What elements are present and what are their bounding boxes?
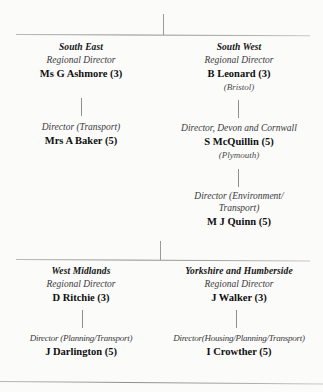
- housing-planning-transport-person-label: I Crowther (5): [157, 346, 321, 358]
- yorkshire-humberside-role-label: Regional Director: [161, 279, 317, 290]
- node-yorkshire-humberside: Yorkshire and Humberside Regional Direct…: [161, 266, 317, 305]
- planning-transport-person-label: J Darlington (5): [4, 346, 158, 358]
- devon-cornwall-role-label: Director, Devon and Cornwall: [160, 123, 318, 134]
- south-west-connector: [238, 100, 239, 118]
- environment-transport-role-line2: Transport): [163, 203, 315, 215]
- org-chart-page: South East Regional Director Ms G Ashmor…: [0, 0, 323, 392]
- south-west-role-label: Regional Director: [163, 55, 315, 66]
- south-east-person-label: Ms G Ashmore (3): [6, 68, 156, 80]
- housing-planning-transport-role-label: Director(Housing/Planning/Transport): [157, 333, 321, 344]
- node-director-devon-cornwall: Director, Devon and Cornwall S McQuillin…: [160, 121, 318, 160]
- devon-cornwall-location-label: (Plymouth): [160, 150, 318, 161]
- page-bottom-rule: [0, 381, 323, 385]
- node-director-transport: Director (Transport) Mrs A Baker (5): [6, 120, 156, 148]
- node-south-east: South East Regional Director Ms G Ashmor…: [6, 42, 156, 81]
- south-west-region-label: South West: [163, 42, 315, 53]
- environment-transport-role-line1: Director (Environment/: [163, 191, 315, 203]
- top-horizontal-rule: [16, 34, 310, 36]
- west-midlands-person-label: D Ritchie (3): [6, 292, 156, 304]
- south-west-location-label: (Bristol): [163, 82, 315, 93]
- west-midlands-role-label: Regional Director: [6, 279, 156, 290]
- node-west-midlands: West Midlands Regional Director D Ritchi…: [6, 266, 156, 305]
- west-midlands-region-label: West Midlands: [6, 266, 156, 277]
- devon-cornwall-person-label: S McQuillin (5): [160, 136, 318, 148]
- top-parent-stem: [163, 14, 164, 35]
- yorkshire-humberside-region-label: Yorkshire and Humberside: [161, 266, 317, 277]
- node-director-planning-transport: Director (Planning/Transport) J Darlingt…: [4, 333, 158, 358]
- south-west-person-label: B Leonard (3): [163, 68, 315, 80]
- yorkshire-humberside-connector: [236, 310, 237, 328]
- node-south-west: South West Regional Director B Leonard (…: [163, 42, 315, 92]
- yorkshire-humberside-person-label: J Walker (3): [161, 292, 317, 304]
- west-midlands-connector: [82, 310, 83, 328]
- planning-transport-role-label: Director (Planning/Transport): [4, 333, 158, 344]
- director-transport-role-label: Director (Transport): [6, 122, 156, 133]
- node-director-environment-transport: Director (Environment/ Transport) M J Qu…: [163, 191, 315, 229]
- director-transport-person-label: Mrs A Baker (5): [6, 135, 156, 147]
- bottom-parent-stem: [160, 241, 161, 260]
- south-east-connector: [81, 98, 82, 116]
- south-east-region-label: South East: [6, 42, 156, 53]
- environment-transport-person-label: M J Quinn (5): [163, 216, 315, 228]
- node-director-housing-planning-transport: Director(Housing/Planning/Transport) I C…: [157, 333, 321, 358]
- bottom-horizontal-rule: [16, 259, 310, 262]
- devon-cornwall-connector: [238, 169, 239, 187]
- south-east-role-label: Regional Director: [6, 55, 156, 66]
